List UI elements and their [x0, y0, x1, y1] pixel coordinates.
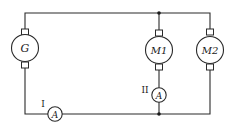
- motor-m2-brush-bottom: [207, 64, 214, 70]
- ammeter-2: A II: [141, 85, 166, 102]
- motor-m2: M2: [197, 29, 224, 70]
- motor-m2-brush-top: [207, 29, 214, 35]
- ammeter-2-label: A: [155, 91, 163, 101]
- motor-m2-label: M2: [201, 45, 219, 56]
- generator-label: G: [21, 42, 30, 55]
- motor-m1-brush-top: [156, 30, 163, 36]
- motor-m1-brush-bottom: [156, 64, 163, 70]
- junction-bottom: [157, 112, 161, 116]
- wire-m2-bottom: [159, 70, 210, 114]
- generator: G: [12, 29, 39, 68]
- junction-top: [157, 11, 161, 15]
- wire-top: [25, 13, 210, 29]
- ammeter-1-position-label: I: [41, 99, 45, 109]
- ammeter-2-position-label: II: [141, 85, 149, 95]
- circuit-diagram: G M1 M2 A I A II: [0, 0, 236, 127]
- motor-m1: M1: [146, 30, 173, 70]
- ammeter-1-label: A: [51, 110, 59, 120]
- generator-brush-bottom: [22, 62, 29, 68]
- motor-m1-label: M1: [150, 45, 168, 56]
- ammeter-1: A I: [41, 99, 62, 121]
